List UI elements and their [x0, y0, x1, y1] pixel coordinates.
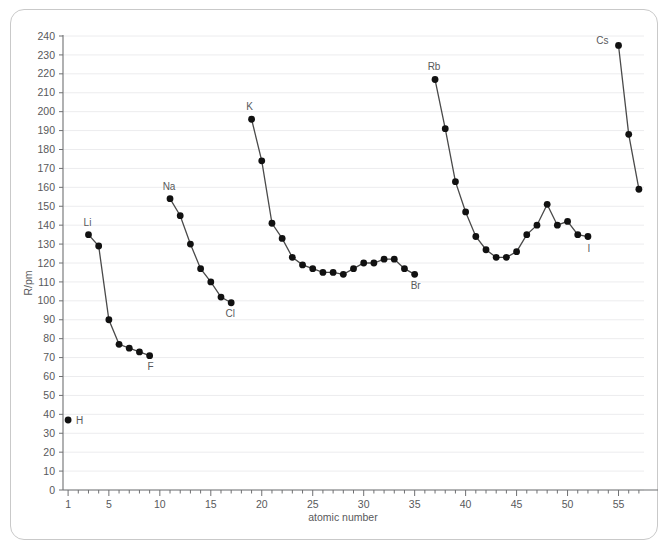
x-tick-label: 35	[409, 498, 421, 510]
y-tick-label: 200	[37, 105, 55, 117]
point-label-Li: Li	[84, 217, 92, 228]
x-tick-label: 40	[460, 498, 472, 510]
y-tick-label: 100	[37, 294, 55, 306]
y-tick-label: 10	[43, 465, 55, 477]
x-tick-label: 50	[562, 498, 574, 510]
data-point	[269, 220, 276, 227]
point-label-Cs: Cs	[596, 35, 608, 46]
series-line-period-6	[619, 45, 639, 189]
figure-root: 0102030405060708090100110120130140150160…	[0, 0, 671, 552]
point-labels: HLiFNaClKBrRbICs	[76, 35, 608, 426]
data-point	[636, 186, 643, 193]
data-point	[360, 260, 367, 267]
x-tick-label: 45	[511, 498, 523, 510]
x-tick-label: 5	[106, 498, 112, 510]
y-tick-label: 230	[37, 49, 55, 61]
data-point	[564, 218, 571, 225]
x-axis-title: atomic number	[308, 511, 378, 523]
data-point	[248, 116, 255, 123]
data-point	[350, 265, 357, 272]
data-point	[432, 76, 439, 83]
data-point	[320, 269, 327, 276]
point-label-Rb: Rb	[428, 61, 441, 72]
y-tick-label: 110	[38, 276, 55, 288]
point-label-Na: Na	[163, 181, 176, 192]
y-tick-label: 130	[37, 238, 55, 250]
data-point	[177, 212, 184, 219]
point-label-Br: Br	[411, 280, 422, 291]
y-tick-label: 20	[43, 446, 55, 458]
data-point	[544, 201, 551, 208]
data-point	[534, 222, 541, 229]
data-point	[391, 256, 398, 263]
data-point	[279, 235, 286, 242]
data-point	[615, 42, 622, 49]
x-tick-label: 10	[154, 498, 166, 510]
y-tick-label: 190	[37, 124, 55, 136]
x-axis-ticks: 1510152025303540455055	[65, 490, 639, 510]
series-line-period-2	[88, 235, 149, 356]
y-axis-ticks: 0102030405060708090100110120130140150160…	[37, 30, 63, 496]
data-point	[95, 243, 102, 250]
x-tick-label: 1	[65, 498, 71, 510]
data-point	[146, 352, 153, 359]
x-tick-label: 15	[205, 498, 217, 510]
data-point	[554, 222, 561, 229]
data-point	[472, 233, 479, 240]
data-point	[65, 417, 72, 424]
data-point	[309, 265, 316, 272]
data-point	[585, 233, 592, 240]
y-tick-label: 150	[37, 200, 55, 212]
data-point	[289, 254, 296, 261]
data-point	[136, 349, 143, 356]
y-tick-label: 120	[37, 257, 55, 269]
data-point	[197, 265, 204, 272]
point-label-Cl: Cl	[225, 308, 234, 319]
x-tick-label: 20	[256, 498, 268, 510]
y-tick-label: 90	[43, 313, 55, 325]
data-point	[513, 248, 520, 255]
data-point	[85, 231, 92, 238]
data-point	[401, 265, 408, 272]
y-axis-title: R/pm	[22, 270, 34, 295]
data-point	[105, 316, 112, 323]
data-point	[381, 256, 388, 263]
y-tick-label: 50	[43, 389, 55, 401]
y-tick-label: 240	[37, 30, 55, 42]
data-point	[493, 254, 500, 261]
x-tick-label: 30	[358, 498, 370, 510]
point-label-F: F	[148, 361, 154, 372]
data-point	[452, 178, 459, 185]
point-label-I: I	[588, 243, 591, 254]
data-point	[330, 269, 337, 276]
data-point	[187, 241, 194, 248]
gridlines	[63, 36, 644, 490]
series-line-period-4	[252, 119, 415, 274]
y-tick-label: 140	[37, 219, 55, 231]
data-point	[442, 125, 449, 132]
data-point	[370, 260, 377, 267]
data-point	[218, 294, 225, 301]
data-point	[340, 271, 347, 278]
x-tick-label: 25	[307, 498, 319, 510]
data-point	[625, 131, 632, 138]
data-point	[116, 341, 123, 348]
point-label-K: K	[246, 101, 253, 112]
y-tick-label: 0	[49, 484, 55, 496]
data-point	[228, 299, 235, 306]
y-tick-label: 60	[43, 370, 55, 382]
y-tick-label: 210	[37, 86, 55, 98]
radius-vs-atomic-number-chart: 0102030405060708090100110120130140150160…	[0, 0, 671, 552]
data-point	[523, 231, 530, 238]
y-tick-label: 180	[37, 143, 55, 155]
y-tick-label: 220	[37, 67, 55, 79]
data-point	[462, 209, 469, 216]
data-point	[167, 195, 174, 202]
data-point	[483, 246, 490, 253]
y-tick-label: 80	[43, 332, 55, 344]
y-tick-label: 170	[37, 162, 55, 174]
data-point	[258, 157, 265, 164]
data-point	[411, 271, 418, 278]
data-point	[207, 279, 214, 286]
data-point	[503, 254, 510, 261]
